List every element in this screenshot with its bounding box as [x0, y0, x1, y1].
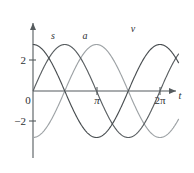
x-tick-label-2pi: 2π — [154, 94, 166, 106]
y-axis-arrow — [30, 23, 36, 30]
x-axis-arrow — [169, 88, 176, 94]
x-tick-label-pi: π — [94, 94, 100, 106]
curve-label-v: v — [131, 23, 136, 34]
y-tick-label-minus2: −2 — [14, 115, 26, 127]
curve-label-a: a — [83, 30, 88, 41]
sinusoid-plot: 2 −2 0 π 2π t s a v — [0, 0, 194, 173]
figure-container: 2 −2 0 π 2π t s a v — [0, 0, 194, 173]
y-tick-label-2: 2 — [21, 54, 27, 66]
curve-label-s: s — [51, 30, 55, 41]
origin-label: 0 — [25, 94, 31, 106]
x-axis-label: t — [179, 90, 183, 101]
